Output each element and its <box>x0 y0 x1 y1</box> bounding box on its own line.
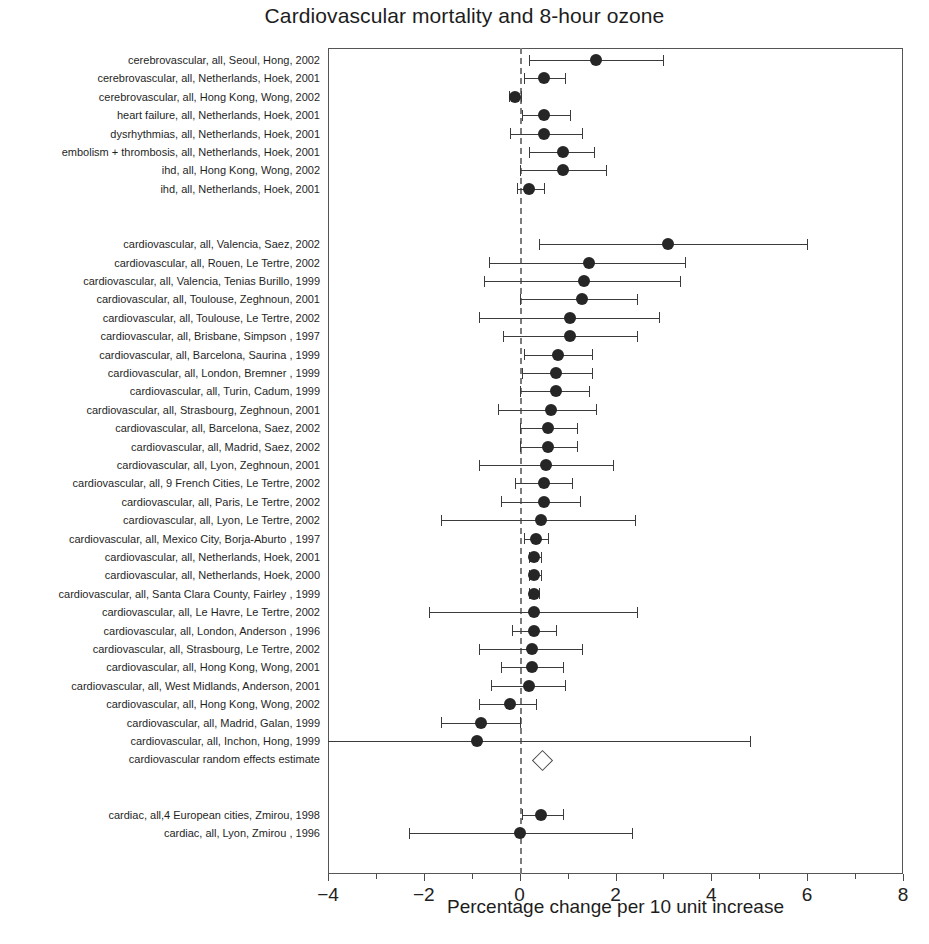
study-label: cardiovascular, all, Lyon, Zeghnoun, 200… <box>117 459 320 471</box>
point-estimate-marker <box>564 312 576 324</box>
point-estimate-marker <box>526 661 538 673</box>
point-estimate-marker <box>471 735 483 747</box>
x-axis-tick <box>807 874 808 881</box>
confidence-interval-cap <box>582 644 583 655</box>
point-estimate-marker <box>583 257 595 269</box>
confidence-interval-line <box>328 741 750 742</box>
confidence-interval-cap <box>635 515 636 526</box>
confidence-interval-cap <box>536 699 537 710</box>
study-label: cardiovascular random effects estimate <box>129 753 320 765</box>
point-estimate-marker <box>538 109 550 121</box>
confidence-interval-cap <box>484 276 485 287</box>
study-label: cardiovascular, all, Madrid, Saez, 2002 <box>131 441 320 453</box>
summary-diamond-marker <box>532 750 553 771</box>
x-axis-minor-tick <box>568 874 569 879</box>
point-estimate-marker <box>538 496 550 508</box>
point-estimate-marker <box>528 606 540 618</box>
study-label: cardiovascular, all, Inchon, Hong, 1999 <box>130 735 320 747</box>
study-label: cardiovascular, all, Toulouse, Zeghnoun,… <box>96 293 320 305</box>
study-label: embolism + thrombosis, all, Netherlands,… <box>62 146 320 158</box>
study-label: cerebrovascular, all, Hong Kong, Wong, 2… <box>99 91 320 103</box>
confidence-interval-cap <box>515 478 516 489</box>
point-estimate-marker <box>475 717 487 729</box>
study-label: cardiovascular, all, Brisbane, Simpson ,… <box>100 330 320 342</box>
confidence-interval-cap <box>577 441 578 452</box>
study-label: cardiovascular, all, Netherlands, Hoek, … <box>105 569 320 581</box>
study-label: cardiovascular, all, Paris, Le Tertre, 2… <box>121 496 320 508</box>
confidence-interval-cap <box>479 460 480 471</box>
confidence-interval-cap <box>520 441 521 452</box>
confidence-interval-cap <box>613 460 614 471</box>
confidence-interval-cap <box>556 625 557 636</box>
point-estimate-marker <box>528 551 540 563</box>
confidence-interval-cap <box>570 110 571 121</box>
confidence-interval-cap <box>582 128 583 139</box>
confidence-interval-cap <box>503 331 504 342</box>
point-estimate-marker <box>504 698 516 710</box>
x-axis-minor-tick <box>759 874 760 879</box>
x-axis-title: Percentage change per 10 unit increase <box>328 896 903 918</box>
confidence-interval-cap <box>594 147 595 158</box>
point-estimate-marker <box>528 588 540 600</box>
confidence-interval-cap <box>517 183 518 194</box>
confidence-interval-cap <box>589 386 590 397</box>
point-estimate-marker <box>528 625 540 637</box>
confidence-interval-cap <box>441 515 442 526</box>
confidence-interval-cap <box>592 368 593 379</box>
point-estimate-marker <box>542 441 554 453</box>
study-label: cardiovascular, all, Barcelona, Saurina … <box>99 349 320 361</box>
x-axis-minor-tick <box>663 874 664 879</box>
confidence-interval-cap <box>520 423 521 434</box>
x-axis-minor-tick <box>855 874 856 879</box>
confidence-interval-cap <box>409 828 410 839</box>
confidence-interval-cap <box>491 680 492 691</box>
confidence-interval-cap <box>577 423 578 434</box>
study-label: cardiovascular, all, Turin, Cadum, 1999 <box>130 385 320 397</box>
confidence-interval-cap <box>541 570 542 581</box>
study-label: cardiovascular, all, Madrid, Galan, 1999 <box>127 717 320 729</box>
confidence-interval-cap <box>606 165 607 176</box>
confidence-interval-cap <box>520 165 521 176</box>
confidence-interval-cap <box>524 533 525 544</box>
point-estimate-marker <box>528 569 540 581</box>
point-estimate-marker <box>509 91 521 103</box>
confidence-interval-cap <box>565 73 566 84</box>
confidence-interval-cap <box>659 312 660 323</box>
study-label: cardiovascular, all, Lyon, Le Tertre, 20… <box>123 514 320 526</box>
confidence-interval-cap <box>637 607 638 618</box>
x-axis-tick <box>616 874 617 881</box>
confidence-interval-cap <box>522 110 523 121</box>
confidence-interval-cap <box>429 607 430 618</box>
point-estimate-marker <box>538 128 550 140</box>
plot-area <box>328 48 903 874</box>
study-label: cardiovascular, all, London, Bremner , 1… <box>108 367 320 379</box>
study-label: cardiovascular, all, Valencia, Tenias Bu… <box>83 275 320 287</box>
study-label: cardiovascular, all, Le Havre, Le Tertre… <box>102 606 320 618</box>
point-estimate-marker <box>538 72 550 84</box>
chart-title: Cardiovascular mortality and 8-hour ozon… <box>0 4 929 28</box>
point-estimate-marker <box>530 533 542 545</box>
forest-plot-figure: Cardiovascular mortality and 8-hour ozon… <box>0 0 929 944</box>
x-axis-minor-tick <box>376 874 377 879</box>
confidence-interval-cap <box>750 736 751 747</box>
study-label: cardiac, all,4 European cities, Zmirou, … <box>108 809 320 821</box>
confidence-interval-cap <box>501 662 502 673</box>
confidence-interval-cap <box>520 386 521 397</box>
study-label: ihd, all, Netherlands, Hoek, 2001 <box>160 183 320 195</box>
point-estimate-marker <box>557 146 569 158</box>
study-label: cardiovascular, all, Rouen, Le Tertre, 2… <box>114 257 320 269</box>
confidence-interval-cap <box>529 55 530 66</box>
point-estimate-marker <box>542 422 554 434</box>
confidence-interval-cap <box>522 809 523 820</box>
study-label: cardiovascular, all, London, Anderson , … <box>104 625 320 637</box>
point-estimate-marker <box>523 680 535 692</box>
confidence-interval-cap <box>637 331 638 342</box>
confidence-interval-cap <box>524 73 525 84</box>
confidence-interval-cap <box>580 496 581 507</box>
point-estimate-marker <box>564 330 576 342</box>
confidence-interval-cap <box>596 404 597 415</box>
confidence-interval-cap <box>544 183 545 194</box>
point-estimate-marker <box>550 367 562 379</box>
confidence-interval-cap <box>563 662 564 673</box>
confidence-interval-cap <box>541 552 542 563</box>
